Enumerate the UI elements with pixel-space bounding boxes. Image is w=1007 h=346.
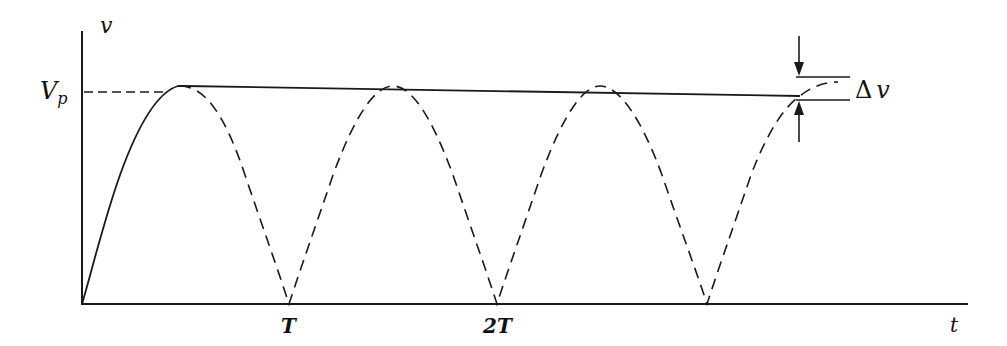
ripple-diagram: Δv v t Vp T 2T <box>0 0 1007 346</box>
y-axis-label: v <box>100 13 113 38</box>
vp-level-label: Vp <box>40 77 68 108</box>
ripple-label: Δv <box>855 76 890 104</box>
x-tick-label-t: T <box>281 314 298 338</box>
up-arrow-icon <box>794 101 804 142</box>
filtered-output-solid-curve <box>82 86 185 304</box>
rectified-sine-dashed-curve <box>180 82 838 304</box>
x-axis-label: t <box>950 313 959 337</box>
down-arrow-icon <box>794 36 804 76</box>
filtered-output-envelope <box>185 86 800 96</box>
x-tick-label-2t: 2T <box>482 314 514 338</box>
